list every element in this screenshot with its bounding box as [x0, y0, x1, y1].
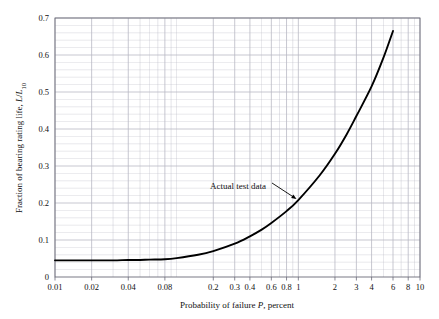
- x-tick-label: 0.08: [157, 282, 172, 292]
- x-tick-label: 1: [296, 282, 300, 292]
- x-tick-label: 4: [369, 282, 374, 292]
- y-tick-label: 0: [45, 272, 49, 282]
- x-tick-labels: 0.010.020.040.080.20.30.40.60.812346810: [48, 282, 425, 292]
- y-tick-label: 0.2: [38, 198, 49, 208]
- y-tick-labels: 00.10.20.30.40.50.60.7: [38, 13, 49, 282]
- x-tick-label: 2: [333, 282, 337, 292]
- x-tick-label: 8: [406, 282, 410, 292]
- data-curve: [55, 31, 393, 260]
- x-axis-title: Probability of failure P, percent: [180, 300, 295, 310]
- x-tick-label: 3: [354, 282, 358, 292]
- x-tick-label: 0.6: [266, 282, 277, 292]
- y-tick-label: 0.3: [38, 161, 49, 171]
- x-tick-label: 6: [391, 282, 395, 292]
- x-tick-label: 0.4: [245, 282, 256, 292]
- annotation-actual-test-data: Actual test data: [210, 181, 266, 191]
- x-tick-label: 0.01: [48, 282, 63, 292]
- x-tick-label: 0.3: [229, 282, 240, 292]
- y-tick-label: 0.1: [38, 235, 49, 245]
- axis-ticks: [55, 277, 420, 281]
- grid-major-lines: [55, 18, 420, 277]
- x-tick-label: 10: [416, 282, 425, 292]
- y-tick-label: 0.5: [38, 87, 49, 97]
- x-tick-label: 0.8: [281, 282, 292, 292]
- figure-container: 0.010.020.040.080.20.30.40.60.812346810 …: [0, 0, 439, 319]
- grid-minor-lines: [55, 18, 420, 277]
- y-tick-label: 0.4: [38, 124, 49, 134]
- y-axis-title: Fraction of bearing rating life, L/L10: [14, 83, 27, 213]
- y-tick-label: 0.6: [38, 50, 49, 60]
- x-tick-label: 0.04: [121, 282, 137, 292]
- plot-frame: [55, 18, 420, 277]
- x-tick-label: 0.2: [208, 282, 219, 292]
- x-tick-label: 0.02: [84, 282, 99, 292]
- bearing-reliability-chart: 0.010.020.040.080.20.30.40.60.812346810 …: [0, 0, 439, 319]
- y-tick-label: 0.7: [38, 13, 49, 23]
